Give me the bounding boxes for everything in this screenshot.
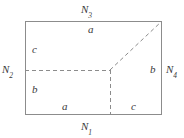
node-label-n2: N2 bbox=[2, 64, 13, 75]
node-label-n1: N1 bbox=[81, 121, 92, 132]
node-label-n3: N3 bbox=[81, 4, 92, 15]
region-label-upper-left: c bbox=[32, 44, 37, 55]
region-label-lower-left: b bbox=[32, 84, 38, 95]
outer-rectangle bbox=[26, 22, 162, 115]
region-label-top-inside: a bbox=[88, 24, 94, 35]
region-label-bottom-right: c bbox=[131, 101, 136, 112]
region-label-bottom-left: a bbox=[62, 101, 68, 112]
region-label-right-inside: b bbox=[150, 64, 156, 75]
node-label-n4: N4 bbox=[166, 64, 177, 75]
figure-canvas bbox=[0, 0, 184, 138]
geometry-figure: N3 N1 N2 N4 a c b a c b bbox=[0, 0, 184, 138]
